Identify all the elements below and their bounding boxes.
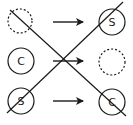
c-label: C bbox=[17, 55, 25, 68]
row-3: S C bbox=[8, 88, 125, 115]
c-label: C bbox=[108, 96, 116, 109]
empty-dashed-circle bbox=[99, 49, 125, 75]
s-label: S bbox=[109, 16, 116, 29]
row-1: S bbox=[8, 9, 125, 35]
empty-dashed-circle bbox=[8, 9, 32, 33]
swap-diagram: S C S C bbox=[0, 0, 133, 125]
